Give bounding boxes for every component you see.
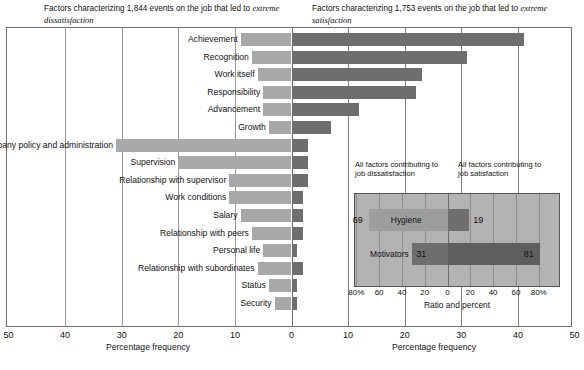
satisfaction-bar <box>292 139 309 152</box>
inset-axis-tick: 40 <box>397 288 406 298</box>
satisfaction-bar <box>292 244 298 257</box>
satisfaction-bar <box>292 227 303 240</box>
dissatisfaction-bar <box>263 244 291 257</box>
satisfaction-bar <box>292 51 467 64</box>
satisfaction-bar <box>292 156 309 169</box>
factor-label: Salary <box>213 209 237 222</box>
factor-label: Supervision <box>130 156 175 169</box>
dissatisfaction-bar <box>269 121 292 134</box>
bar-row: Growth <box>0 119 584 136</box>
factor-label: Work itself <box>215 68 255 81</box>
satisfaction-bar <box>292 174 309 187</box>
factor-label: Personal life <box>213 244 260 257</box>
axis-tick: 10 <box>343 329 353 341</box>
satisfaction-bar <box>292 86 417 99</box>
factor-label: Achievement <box>188 33 238 46</box>
dissatisfaction-bar <box>229 191 291 204</box>
bar-row: Work itself <box>0 66 584 83</box>
bar-row: Achievement <box>0 31 584 48</box>
inset-gridline <box>448 194 449 286</box>
right-axis-ticks: 01020304050 <box>0 329 584 341</box>
dissatisfaction-bar <box>263 86 291 99</box>
dissatisfaction-bar <box>275 297 292 310</box>
inset-right-value: 81 <box>524 243 534 265</box>
axis-tick: 50 <box>569 329 579 341</box>
satisfaction-bar <box>292 279 298 292</box>
factor-label: Security <box>240 297 271 310</box>
inset-caption-left: All factors contributing to job dissatis… <box>355 160 441 178</box>
dissatisfaction-bar <box>241 209 292 222</box>
factor-label: Growth <box>238 121 266 134</box>
inset-gridline <box>379 194 380 286</box>
right-header-text: Factors characterizing 1,753 events on t… <box>312 4 520 13</box>
factor-label: Company policy and administration <box>0 139 113 152</box>
bar-row: Company policy and administration <box>0 137 584 154</box>
dissatisfaction-bar <box>116 139 291 152</box>
bar-row: Responsibility <box>0 84 584 101</box>
satisfaction-bar <box>292 121 332 134</box>
factor-label: Relationship with supervisor <box>119 174 226 187</box>
right-panel-header: Factors characterizing 1,753 events on t… <box>312 3 574 26</box>
inset-gridline <box>356 194 357 286</box>
factor-label: Advancement <box>208 103 261 116</box>
hygiene-satisfaction-segment <box>448 209 470 231</box>
inset-row: Motivators3181 <box>352 243 567 265</box>
inset-frame <box>354 193 560 287</box>
factor-label: Relationship with peers <box>160 227 249 240</box>
dissatisfaction-bar <box>252 227 292 240</box>
satisfaction-bar <box>292 103 360 116</box>
inset-gridline <box>425 194 426 286</box>
axis-tick: 20 <box>400 329 410 341</box>
inset-left-value: 31 <box>416 243 426 265</box>
left-axis-title: Percentage frequency <box>106 342 190 352</box>
dissatisfaction-bar <box>229 174 291 187</box>
bar-row: Recognition <box>0 49 584 66</box>
dissatisfaction-bar <box>258 262 292 275</box>
herzberg-chart: Factors characterizing 1,844 events on t… <box>0 0 584 370</box>
inset-axis-tick: 0 <box>445 288 449 298</box>
axis-tick: 40 <box>513 329 523 341</box>
dissatisfaction-bar <box>178 156 291 169</box>
factor-label: Work conditions <box>165 191 226 204</box>
inset-gridline <box>493 194 494 286</box>
factor-label: Recognition <box>204 51 249 64</box>
dissatisfaction-bar <box>241 33 292 46</box>
inset-gridline <box>402 194 403 286</box>
inset-right-value: 19 <box>473 209 483 231</box>
satisfaction-bar <box>292 68 422 81</box>
factor-label: Status <box>242 279 266 292</box>
satisfaction-bar <box>292 297 298 310</box>
inset-axis-tick: 60 <box>375 288 384 298</box>
inset-gridline <box>470 194 471 286</box>
factor-label: Relationship with subordinates <box>138 262 255 275</box>
inset-gridline <box>539 194 540 286</box>
satisfaction-bar <box>292 191 303 204</box>
inset-gridline <box>516 194 517 286</box>
inset-axis-tick: 80% <box>348 288 364 298</box>
dissatisfaction-bar <box>252 51 292 64</box>
axis-tick: 0 <box>289 329 294 341</box>
left-panel-header: Factors characterizing 1,844 events on t… <box>44 3 294 26</box>
inset-axis-tick: 20 <box>420 288 429 298</box>
dissatisfaction-bar <box>269 279 292 292</box>
left-header-text: Factors characterizing 1,844 events on t… <box>44 4 252 13</box>
axis-tick: 30 <box>456 329 466 341</box>
satisfaction-bar <box>292 209 303 222</box>
satisfaction-bar <box>292 262 303 275</box>
inset-axis-tick: 20 <box>466 288 475 298</box>
inset-axis-tick: 40 <box>489 288 498 298</box>
inset-left-value: 69 <box>353 209 363 231</box>
inset-caption-right: All factors contributing to job satisfac… <box>458 160 550 178</box>
bar-row: Advancement <box>0 101 584 118</box>
factor-label: Responsibility <box>207 86 260 99</box>
dissatisfaction-bar <box>263 103 291 116</box>
hygiene-motivators-inset: All factors contributing to job dissatis… <box>352 160 567 325</box>
inset-axis-tick: 80% <box>531 288 547 298</box>
inset-row-label: Motivators <box>370 243 409 265</box>
dissatisfaction-bar <box>258 68 292 81</box>
inset-axis-title: Ratio and percent <box>424 300 490 310</box>
right-axis-title: Percentage frequency <box>392 342 476 352</box>
inset-axis-tick: 60 <box>511 288 520 298</box>
satisfaction-bar <box>292 33 524 46</box>
inset-row: Hygiene6919 <box>352 209 567 231</box>
